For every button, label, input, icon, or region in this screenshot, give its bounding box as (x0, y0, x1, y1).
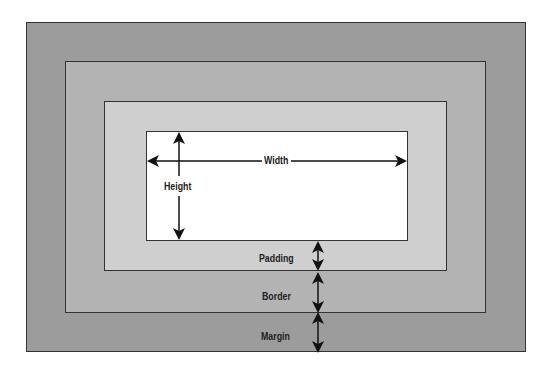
border-label: Border (262, 291, 291, 302)
height-label: Height (164, 181, 191, 192)
width-label: Width (264, 155, 288, 166)
margin-label: Margin (261, 331, 290, 342)
dimension-arrows (0, 0, 549, 370)
padding-label: Padding (259, 253, 294, 264)
